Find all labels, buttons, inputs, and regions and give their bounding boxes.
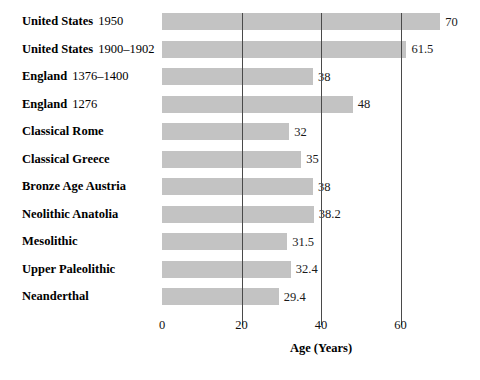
bar	[162, 68, 313, 85]
category-place: Classical Rome	[22, 124, 104, 138]
bar	[162, 41, 406, 58]
gridline	[242, 13, 243, 325]
bar-value-label: 48	[358, 97, 371, 112]
category-label: Mesolithic	[22, 233, 78, 250]
category-label: United States1950	[22, 13, 123, 30]
life-expectancy-bar-chart: United States1950United States1900–1902E…	[0, 0, 480, 380]
bar	[162, 206, 314, 223]
gridline	[401, 13, 402, 325]
category-place: Neanderthal	[22, 289, 89, 303]
category-label: Classical Greece	[22, 151, 110, 168]
bar-value-label: 38.2	[319, 207, 341, 222]
category-label: England1276	[22, 96, 97, 113]
category-label: Upper Paleolithic	[22, 261, 115, 278]
category-place: United States	[22, 42, 93, 56]
category-label: Classical Rome	[22, 123, 104, 140]
bar-value-label: 35	[306, 152, 319, 167]
x-axis-tick-label: 40	[315, 318, 328, 333]
category-label: United States1900–1902	[22, 41, 154, 58]
category-period: 1950	[98, 14, 123, 28]
bar	[162, 13, 440, 30]
bar	[162, 261, 291, 278]
category-label: Bronze Age Austria	[22, 178, 126, 195]
gridline	[321, 13, 322, 325]
category-place: England	[22, 97, 67, 111]
bar-value-label: 38	[318, 69, 331, 84]
bar	[162, 178, 313, 195]
category-label: Neolithic Anatolia	[22, 206, 118, 223]
x-axis-tick-label: 0	[159, 318, 165, 333]
bar-value-label: 29.4	[284, 289, 306, 304]
category-place: Classical Greece	[22, 152, 110, 166]
category-label: Neanderthal	[22, 288, 89, 305]
category-place: England	[22, 69, 67, 83]
x-axis-title: Age (Years)	[162, 341, 480, 356]
bar-value-label: 70	[445, 14, 458, 29]
category-place: United States	[22, 14, 93, 28]
x-axis-tick-label: 60	[394, 318, 407, 333]
category-place: Mesolithic	[22, 234, 78, 248]
bar-value-label: 32.4	[296, 262, 318, 277]
bar	[162, 233, 287, 250]
bar-value-label: 32	[294, 124, 307, 139]
bar-value-label: 38	[318, 179, 331, 194]
category-place: Neolithic Anatolia	[22, 207, 118, 221]
category-period: 1376–1400	[72, 69, 128, 83]
bar	[162, 151, 301, 168]
x-axis-tick-label: 20	[235, 318, 248, 333]
bar-value-label: 61.5	[411, 42, 433, 57]
bar	[162, 123, 289, 140]
bar	[162, 96, 353, 113]
bar-value-label: 31.5	[292, 234, 314, 249]
bar	[162, 288, 279, 305]
category-place: Bronze Age Austria	[22, 179, 126, 193]
category-place: Upper Paleolithic	[22, 262, 115, 276]
category-period: 1276	[72, 97, 97, 111]
category-period: 1900–1902	[98, 42, 154, 56]
category-label: England1376–1400	[22, 68, 128, 85]
plot-area: 7061.5384832353838.231.532.429.4	[162, 13, 480, 325]
